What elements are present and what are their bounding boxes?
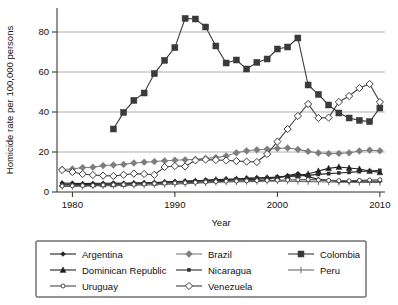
data-point (193, 180, 197, 184)
data-point (255, 179, 259, 183)
data-point (224, 179, 228, 183)
data-point (204, 180, 208, 184)
legend-label: Brazil (208, 249, 232, 260)
data-point (378, 178, 382, 182)
data-point (315, 91, 321, 97)
data-point (91, 183, 95, 187)
legend-label: Nicaragua (208, 265, 252, 276)
data-point (245, 179, 249, 183)
data-point (183, 181, 187, 185)
data-point (172, 45, 178, 51)
data-point (346, 115, 352, 121)
data-point (264, 56, 270, 62)
data-point (296, 174, 299, 177)
data-point (234, 179, 238, 183)
x-tick-label: 2000 (267, 199, 288, 210)
x-tick-label: 1990 (164, 199, 185, 210)
data-point (296, 178, 300, 182)
y-tick-label: 80 (38, 26, 49, 37)
data-point (152, 182, 156, 186)
data-point (274, 46, 280, 52)
x-tick-label: 1980 (62, 199, 83, 210)
data-point (151, 71, 157, 77)
data-point (213, 43, 219, 49)
data-point (141, 90, 147, 96)
data-point (337, 171, 340, 174)
legend-label: Venezuela (208, 281, 253, 292)
y-tick-label: 60 (38, 66, 49, 77)
data-point (81, 184, 85, 188)
data-point (70, 184, 74, 188)
data-point (265, 178, 269, 182)
data-point (275, 178, 279, 182)
legend-label: Uruguay (82, 281, 118, 292)
homicide-rate-chart: 1980199020002010 020406080 Homicide rate… (0, 0, 398, 305)
legend-marker (187, 268, 190, 271)
data-point (223, 60, 229, 66)
data-point (121, 109, 127, 115)
data-point (358, 170, 361, 173)
data-point (348, 171, 351, 174)
data-point (367, 119, 373, 125)
data-point (357, 178, 361, 182)
data-point (327, 172, 330, 175)
legend-label: Argentina (82, 249, 123, 260)
data-point (142, 182, 146, 186)
y-tick-label: 20 (38, 146, 49, 157)
data-point (163, 181, 167, 185)
data-point (162, 57, 168, 63)
data-point (214, 180, 218, 184)
data-point (111, 183, 115, 187)
data-point (347, 179, 351, 183)
data-point (203, 24, 209, 30)
data-point (295, 35, 301, 41)
y-tick-label: 0 (44, 186, 49, 197)
data-point (60, 184, 64, 188)
data-point (286, 178, 290, 182)
chart-legend: ArgentinaBrazilColombiaDominican Republi… (36, 241, 366, 297)
legend-label: Peru (320, 265, 340, 276)
data-point (316, 178, 320, 182)
data-point (244, 66, 250, 72)
y-axis-title: Homicide rate per 100,000 persons (4, 26, 15, 175)
data-point (122, 183, 126, 187)
data-point (131, 97, 137, 103)
chart-canvas: 1980199020002010 020406080 Homicide rate… (0, 0, 398, 305)
data-point (326, 102, 332, 108)
data-point (233, 57, 239, 63)
x-axis-title: Year (211, 217, 230, 228)
data-point (368, 178, 372, 182)
data-point (132, 182, 136, 186)
data-point (254, 59, 260, 65)
data-point (285, 44, 291, 50)
data-point (327, 178, 331, 182)
x-tick-label: 2010 (369, 199, 390, 210)
legend-label: Colombia (320, 249, 361, 260)
data-point (101, 183, 105, 187)
legend-marker (61, 284, 65, 288)
data-point (337, 179, 341, 183)
legend-marker (298, 251, 304, 257)
data-point (368, 169, 371, 172)
data-point (110, 126, 116, 132)
data-point (317, 173, 320, 176)
data-point (173, 181, 177, 185)
data-point (356, 117, 362, 123)
data-point (192, 16, 198, 22)
data-point (306, 178, 310, 182)
data-point (307, 174, 310, 177)
y-tick-label: 40 (38, 106, 49, 117)
data-point (305, 82, 311, 88)
legend-label: Dominican Republic (82, 265, 167, 276)
data-point (336, 110, 342, 116)
data-point (378, 169, 381, 172)
data-point (182, 15, 188, 21)
